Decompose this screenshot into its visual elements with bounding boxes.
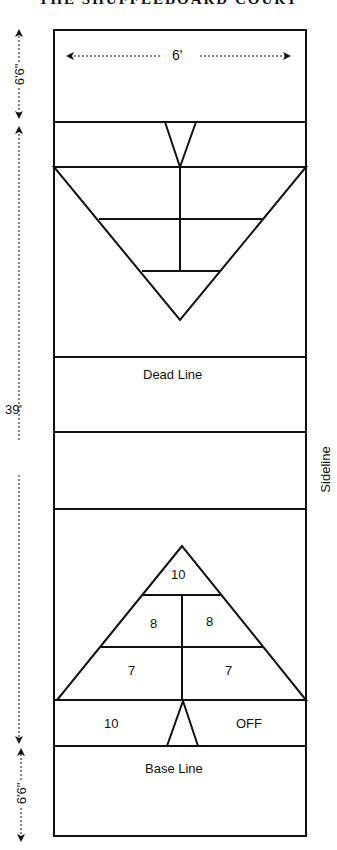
shuffleboard-court-diagram	[0, 0, 337, 850]
bottom-zone-dimension-label: 6'6"	[14, 780, 29, 808]
bottom-ten-off-wedge	[167, 701, 198, 746]
top-ten-off-wedge	[165, 122, 196, 167]
score-7-left: 7	[128, 663, 135, 678]
dead-line-label: Dead Line	[143, 367, 202, 382]
length-dimension-arrows	[19, 33, 21, 838]
ten-off-off-label: OFF	[236, 716, 262, 731]
width-dimension-label: 6'	[172, 47, 182, 63]
score-10-top: 10	[171, 567, 185, 582]
score-8-right: 8	[206, 614, 213, 629]
top-zone-dimension-label: 6'6"	[12, 61, 27, 89]
base-line-label: Base Line	[145, 761, 203, 776]
sideline-label: Sideline	[318, 440, 333, 500]
top-scoring-triangle	[54, 167, 306, 320]
middle-length-label: 39'	[5, 402, 22, 417]
score-8-left: 8	[150, 616, 157, 631]
score-7-right: 7	[225, 663, 232, 678]
ten-off-10-label: 10	[104, 716, 118, 731]
